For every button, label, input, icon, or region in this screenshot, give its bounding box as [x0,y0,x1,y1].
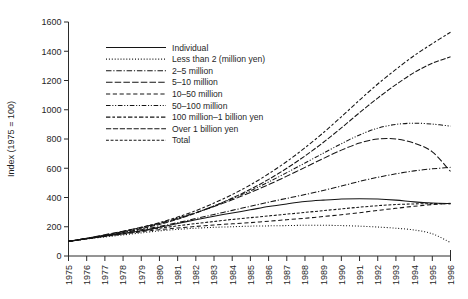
x-tick-label: 1975 [64,265,74,285]
x-tick-label: 1989 [319,265,329,285]
legend-item-label: 10–50 million [172,89,223,99]
legend-item-label: 2–5 million [172,66,213,76]
x-tick-label: 1985 [246,265,256,285]
series-line [69,204,451,242]
legend-item-label: Total [172,135,190,145]
y-tick-label: 1200 [41,76,61,86]
x-tick-label: 1984 [228,265,238,285]
y-axis-title-text: Index (1975 = 100) [6,101,16,177]
x-tick-label: 1979 [137,265,147,285]
legend-item-label: 5–10 million [172,77,218,87]
x-tick-label: 1990 [337,265,347,285]
x-tick-label: 1986 [264,265,274,285]
x-tick-label: 1978 [118,265,128,285]
y-axis-title: Index (1975 = 100) [6,101,16,177]
x-tick-label: 1977 [100,265,110,285]
y-tick-label: 200 [46,222,61,232]
x-tick-label: 1991 [355,265,365,285]
y-tick-label: 0 [56,251,61,261]
x-tick-label: 1981 [173,265,183,285]
x-tick-label: 1995 [428,265,438,285]
y-tick-label: 800 [46,134,61,144]
y-tick-label: 1400 [41,47,61,57]
chart-figure: 0200400600800100012001400160019751976197… [0,0,468,299]
legend-item-label: Individual [172,43,208,53]
x-tick-label: 1996 [446,265,456,285]
line-chart: 0200400600800100012001400160019751976197… [0,0,468,299]
legend-item-label: 50–100 million [172,101,228,111]
series-line [69,203,451,241]
x-tick-label: 1980 [155,265,165,285]
x-tick-label: 1994 [410,265,420,285]
x-tick-label: 1987 [282,265,292,285]
x-tick-label: 1993 [391,265,401,285]
x-tick-label: 1976 [82,265,92,285]
y-tick-label: 1600 [41,17,61,27]
x-tick-label: 1988 [300,265,310,285]
legend-item-label: Less than 2 (million yen) [172,54,265,64]
series-line [69,123,451,241]
x-tick-label: 1983 [209,265,219,285]
y-tick-label: 1000 [41,105,61,115]
x-tick-label: 1982 [191,265,201,285]
x-tick-label: 1992 [373,265,383,285]
chart-legend: IndividualLess than 2 (million yen)2–5 m… [106,43,265,146]
legend-item-label: Over 1 billion yen [172,124,239,134]
y-tick-label: 400 [46,193,61,203]
series-line [69,57,451,242]
y-tick-label: 600 [46,164,61,174]
legend-item-label: 100 million–1 billion yen [172,112,263,122]
